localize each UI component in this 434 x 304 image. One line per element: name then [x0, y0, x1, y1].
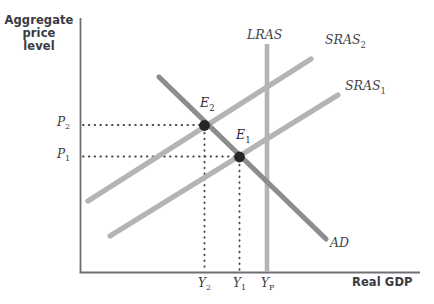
equilibrium-point-e1	[234, 152, 245, 163]
y-tick-label-p2-sub: 2	[65, 122, 70, 131]
x-tick-label-y1-sub: 1	[241, 283, 246, 292]
equilibrium-point-e2	[199, 120, 210, 131]
sras1-curve-label-sub: 1	[381, 86, 386, 96]
y-tick-label-p1-base: P	[57, 147, 65, 161]
sras2-curve-label: SRAS2	[325, 33, 366, 50]
guide-lines	[83, 125, 240, 271]
y-axis-title-line-3: level	[23, 39, 54, 53]
equilibrium-label-e1-base: E	[236, 127, 245, 142]
y-axis-title: Aggregate price level	[4, 14, 74, 53]
y-tick-label-p2: P2	[57, 116, 70, 132]
y-tick-label-p1: P1	[57, 148, 70, 164]
y-tick-label-p1-sub: 1	[65, 154, 70, 163]
sras1-curve-label-base: SRAS	[345, 78, 381, 93]
equilibrium-label-e2-sub: 2	[209, 103, 214, 113]
x-tick-label-y1: Y1	[233, 277, 246, 293]
equilibrium-label-e2: E2	[200, 96, 215, 113]
axis-lines	[80, 18, 420, 273]
x-tick-label-yp-base: Y	[261, 276, 269, 290]
equilibrium-label-e2-base: E	[200, 95, 209, 110]
x-tick-label-y2: Y2	[198, 277, 211, 293]
x-axis-title: Real GDP	[352, 276, 413, 289]
x-tick-label-y2-base: Y	[198, 276, 206, 290]
equilibrium-label-e1: E1	[236, 128, 251, 145]
x-tick-label-yp-sub: P	[269, 283, 274, 292]
x-tick-label-y2-sub: 2	[206, 283, 211, 292]
lras-curve-label: LRAS	[247, 28, 282, 42]
equilibrium-label-e1-sub: 1	[245, 135, 250, 145]
x-tick-label-y1-base: Y	[233, 276, 241, 290]
ad-as-diagram: Aggregate price level Real GDP LRAS SRAS…	[0, 0, 434, 304]
y-tick-label-p2-base: P	[57, 115, 65, 129]
sras2-curve-label-base: SRAS	[325, 32, 361, 47]
x-tick-label-yp: YP	[261, 277, 274, 293]
sras2-curve-label-sub: 2	[361, 40, 366, 50]
ad-curve-label: AD	[330, 236, 349, 250]
sras1-curve-label: SRAS1	[345, 79, 386, 96]
